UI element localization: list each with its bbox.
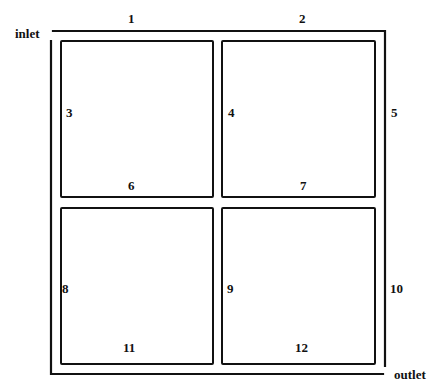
block-top-left	[61, 41, 213, 197]
segment-label-10: 10	[390, 281, 403, 296]
segment-label-5: 5	[391, 105, 398, 120]
segment-label-3: 3	[66, 105, 73, 120]
segment-label-1: 1	[128, 11, 135, 26]
segment-label-7: 7	[300, 178, 307, 193]
segment-label-4: 4	[228, 105, 235, 120]
segment-label-8: 8	[62, 281, 69, 296]
segment-label-9: 9	[227, 281, 234, 296]
channel-diagram: inlet outlet 1 2 3 4 5 6 7 8 9 10 11 12	[0, 0, 440, 388]
outer-wall-top-right	[53, 31, 385, 366]
segment-label-2: 2	[299, 11, 306, 26]
block-top-right	[222, 41, 375, 197]
block-bottom-left	[61, 208, 213, 364]
segment-label-12: 12	[295, 340, 308, 355]
segment-label-6: 6	[128, 178, 135, 193]
segment-label-11: 11	[123, 340, 135, 355]
outlet-label: outlet	[394, 367, 426, 382]
inlet-label: inlet	[15, 26, 40, 41]
